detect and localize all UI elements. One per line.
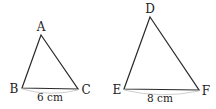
triangle-def: D E F 8 cm [113,2,211,104]
triangle-def-shape [124,17,199,90]
vertex-label-e: E [113,83,122,97]
base-bc-measure: 6 cm [37,91,63,103]
triangle-abc: A B C 6 cm [10,20,91,103]
vertex-label-d: D [145,2,155,16]
base-ef-measure: 8 cm [147,92,173,104]
vertex-label-c: C [81,83,90,97]
vertex-label-f: F [202,84,210,98]
vertex-label-a: A [36,20,46,34]
vertex-label-b: B [10,82,19,96]
triangle-abc-shape [22,35,78,89]
similar-triangles-diagram: A B C 6 cm D E F 8 cm [0,0,216,109]
